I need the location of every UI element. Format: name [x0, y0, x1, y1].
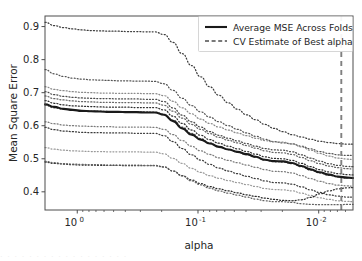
- y-axis-label: Mean Square Error: [7, 63, 19, 162]
- y-tick-label: 0.4: [23, 186, 39, 197]
- svg-text:10: 10: [64, 217, 77, 228]
- svg-text:0: 0: [80, 216, 84, 224]
- svg-text:-2: -2: [320, 216, 327, 224]
- chart-legend: Average MSE Across Folds CV Estimate of …: [199, 17, 353, 52]
- chart-figure: 0.40.50.60.70.80.9 10010-110-2 Mean Squa…: [0, 0, 362, 261]
- y-tick-label: 0.9: [23, 21, 39, 32]
- mse-vs-alpha-chart: 0.40.50.60.70.80.9 10010-110-2 Mean Squa…: [0, 0, 362, 261]
- svg-text:10: 10: [185, 217, 198, 228]
- y-tick-label: 0.8: [23, 54, 39, 65]
- svg-text:10: 10: [306, 217, 319, 228]
- svg-text:-1: -1: [199, 216, 206, 224]
- y-tick-label: 0.6: [23, 120, 39, 131]
- x-axis-label: alpha: [184, 239, 213, 251]
- y-tick-label: 0.5: [23, 153, 39, 164]
- page-bleed-text: · · · · · · · · · · · · · · · · · ·: [0, 252, 362, 261]
- legend-label-average-mse: Average MSE Across Folds: [233, 22, 353, 33]
- legend-label-cv-best-alpha: CV Estimate of Best alpha: [233, 36, 353, 47]
- y-tick-label: 0.7: [23, 87, 39, 98]
